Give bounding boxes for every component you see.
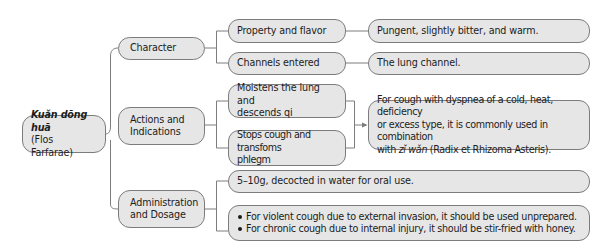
stops-line1: Stops cough and transfoms [237,129,337,154]
channels-entered-node: Channels entered [228,52,346,75]
stops-line2: phlegm [237,154,337,167]
administration-label-line1: Administration [130,197,198,210]
indication-line1: For cough with dyspnea of a cold, heat, … [377,94,581,119]
indication-line3-prefix: with [377,144,399,155]
moistens-lung-node: Moistens the lung and descends qi [228,84,346,118]
preparation-note: For violent cough due to external invasi… [237,211,577,224]
dosage-text: 5–10g, decocted in water for oral use. [237,175,414,188]
property-flavor-label: Property and flavor [237,25,326,38]
property-flavor-detail-text: Pungent, slightly bitter, and warm. [377,25,538,38]
channels-entered-label: Channels entered [237,57,319,70]
indication-line3: with zǐ wǎn (Radix et Rhizoma Asteris). [377,144,581,157]
actions-node: Actions and Indications [118,107,205,145]
property-flavor-node: Property and flavor [228,19,346,43]
zi-wan-term: zǐ wǎn [399,144,427,155]
property-flavor-detail: Pungent, slightly bitter, and warm. [368,19,590,43]
administration-label-line2: and Dosage [130,209,198,222]
channels-entered-detail-text: The lung channel. [377,57,460,70]
indication-line2: or excess type, it is commonly used in c… [377,119,581,144]
channels-entered-detail: The lung channel. [368,52,590,75]
root-title: Kuǎn dōng huā [31,109,97,134]
indication-line3-suffix: (Radix et Rhizoma Asteris). [427,144,551,155]
administration-node: Administration and Dosage [118,190,205,228]
dosage-node: 5–10g, decocted in water for oral use. [228,170,590,193]
arrow-icon [362,123,368,128]
root-node: Kuǎn dōng huā (Flos Farfarae) [22,115,106,153]
actions-label-line1: Actions and [130,114,185,127]
moistens-line2: descends qi [237,107,337,120]
preparation-notes-node: For violent cough due to external invasi… [228,205,590,241]
actions-label-line2: Indications [130,126,185,139]
moistens-line1: Moistens the lung and [237,82,337,107]
character-node: Character [118,37,205,60]
preparation-notes-list: For violent cough due to external invasi… [237,211,577,236]
preparation-note: For chronic cough due to internal injury… [237,223,577,236]
character-label: Character [130,42,176,55]
stops-cough-node: Stops cough and transfoms phlegm [228,130,346,166]
root-subtitle: (Flos Farfarae) [31,134,97,159]
indication-detail: For cough with dyspnea of a cold, heat, … [368,100,590,150]
